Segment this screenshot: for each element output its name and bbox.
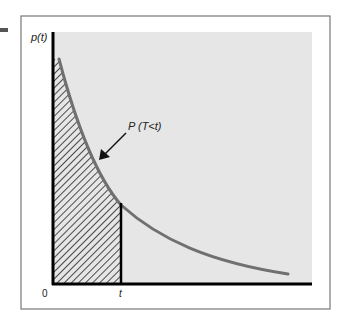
y-axis-label: p(t) <box>30 31 48 43</box>
annotation-label: P (T<t) <box>128 120 162 132</box>
corner-mark <box>0 28 8 32</box>
origin-label: 0 <box>42 288 48 299</box>
diagram: p(t) P (T<t) 0 t <box>0 0 346 326</box>
